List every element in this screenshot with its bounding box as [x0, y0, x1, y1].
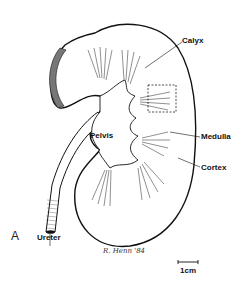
panel-letter: A — [11, 229, 19, 243]
scale-bar — [178, 260, 198, 264]
label-medulla: Medulla — [201, 132, 231, 141]
scale-bar-label: 1cm — [180, 266, 196, 275]
label-pelvis: Pelvis — [90, 131, 113, 140]
label-ureter: Ureter — [37, 233, 61, 242]
kidney-diagram: Calyx Pelvis Medulla Cortex Ureter A R. … — [0, 0, 249, 283]
label-calyx: Calyx — [182, 36, 203, 45]
artist-signature: R. Henn '84 — [103, 247, 145, 255]
label-cortex: Cortex — [201, 163, 226, 172]
